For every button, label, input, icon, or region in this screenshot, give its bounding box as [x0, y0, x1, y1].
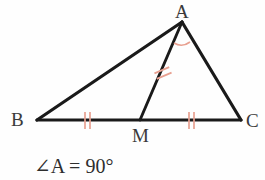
angle-arc-at-A [174, 42, 190, 45]
vertex-label-M: M [132, 126, 149, 145]
geometry-figure: A B C M ∠A = 90° [0, 0, 265, 180]
segment-CA [182, 22, 241, 120]
vertex-label-C: C [246, 111, 259, 130]
vertex-label-A: A [175, 2, 189, 21]
triangle-outline [37, 22, 241, 120]
angle-condition-caption: ∠A = 90° [34, 156, 113, 177]
geometry-canvas [0, 0, 265, 180]
vertex-label-B: B [11, 110, 24, 129]
